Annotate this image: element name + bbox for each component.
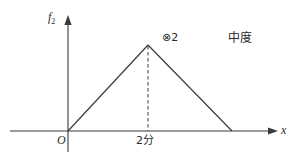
peak-marker-annotation: ⊗2 [162, 32, 178, 43]
x-axis-arrowhead [268, 127, 278, 134]
curve-falling-edge [148, 45, 232, 131]
y-axis-arrowhead [64, 15, 71, 25]
x-axis-tick-label-2fen: 2分 [136, 135, 154, 146]
difficulty-label: 中度 [228, 32, 252, 44]
y-axis-label: f2 [48, 11, 55, 26]
membership-function-figure: f2 x O ⊗2 中度 2分 [0, 0, 297, 161]
y-axis-label-subscript: 2 [51, 17, 55, 26]
origin-label: O [57, 134, 66, 146]
curve-rising-edge [68, 45, 148, 131]
x-axis-label: x [281, 124, 286, 136]
